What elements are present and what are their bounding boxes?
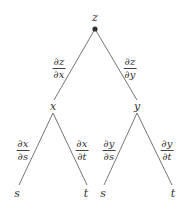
leaf-s-left: s	[14, 188, 20, 199]
leaf-t-left: t	[84, 188, 88, 199]
label-dy-dt: ∂y ∂t	[161, 139, 174, 162]
label-dz-dy-numerator: ∂z	[124, 57, 136, 67]
leaf-s-right: s	[100, 188, 106, 199]
label-dy-ds-denominator: ∂s	[103, 152, 115, 162]
label-dx-dt-numerator: ∂x	[76, 139, 89, 149]
node-x: x	[50, 101, 56, 112]
label-dz-dx: ∂z ∂x	[53, 57, 66, 80]
label-dz-dy-denominator: ∂y	[124, 70, 137, 80]
tree-lines	[0, 0, 180, 213]
label-dx-ds: ∂x ∂s	[17, 139, 30, 162]
label-dz-dx-denominator: ∂x	[53, 70, 66, 80]
label-dz-dx-numerator: ∂z	[53, 57, 65, 67]
label-dx-ds-denominator: ∂s	[17, 152, 29, 162]
label-dx-dt: ∂x ∂t	[76, 139, 89, 162]
label-dx-dt-denominator: ∂t	[76, 152, 87, 162]
node-y: y	[134, 101, 140, 112]
label-dz-dy: ∂z ∂y	[124, 57, 137, 80]
label-dy-dt-numerator: ∂y	[161, 139, 174, 149]
label-dy-ds: ∂y ∂s	[103, 139, 116, 162]
node-z: z	[92, 12, 98, 23]
leaf-t-right: t	[171, 188, 175, 199]
label-dy-dt-denominator: ∂t	[161, 152, 172, 162]
label-dy-ds-numerator: ∂y	[103, 139, 116, 149]
root-node-dot	[92, 26, 97, 31]
label-dx-ds-numerator: ∂x	[17, 139, 30, 149]
